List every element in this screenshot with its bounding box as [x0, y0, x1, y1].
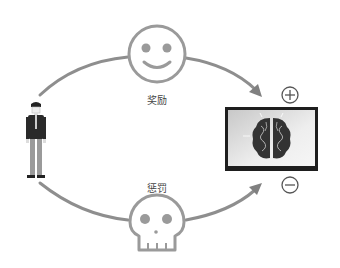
punishment-label: 惩罚: [137, 180, 177, 195]
skull-icon: [130, 195, 184, 250]
reward-path-right: [186, 58, 256, 90]
diagram-canvas: [0, 0, 340, 268]
minus-circle-icon: [282, 177, 298, 193]
smiley-face-icon: [129, 26, 185, 82]
punishment-path-right: [186, 190, 255, 220]
brain-screen: [225, 107, 318, 171]
reward-path-left: [40, 57, 128, 95]
person-icon: [26, 102, 46, 178]
punishment-path-left: [40, 183, 128, 220]
plus-circle-icon: [282, 87, 298, 103]
reward-label: 奖励: [137, 92, 177, 107]
